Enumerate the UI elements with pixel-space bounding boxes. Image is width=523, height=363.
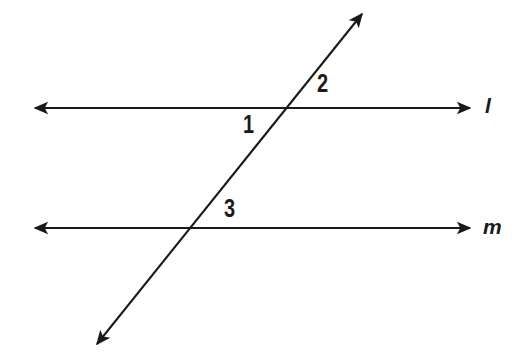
transversal-line	[97, 14, 362, 344]
angle-label-3: 3	[224, 196, 235, 221]
angle-label-1: 1	[243, 112, 254, 137]
line-label-m: m	[483, 216, 502, 237]
angle-label-2: 2	[317, 71, 328, 96]
line-label-l: l	[485, 95, 491, 116]
geometry-figure: l m 1 2 3	[0, 0, 523, 363]
geometry-canvas	[0, 0, 523, 363]
